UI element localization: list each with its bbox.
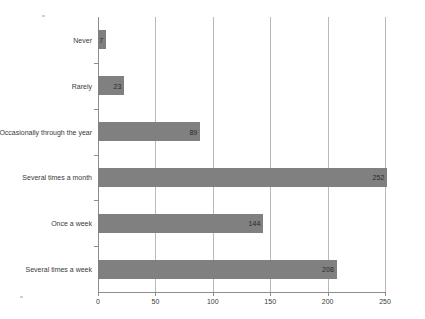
category-label: Several times a month xyxy=(22,174,92,181)
category-label: Once a week xyxy=(51,220,92,227)
bar-chart: 0501001502002507Never23Rarely89Occasiona… xyxy=(0,0,425,319)
gridline xyxy=(213,17,214,292)
x-axis-tick xyxy=(270,292,271,296)
x-axis-tick-label: 200 xyxy=(322,298,334,305)
plot-area xyxy=(98,17,385,292)
bar: 252 xyxy=(98,168,387,187)
x-axis-tick xyxy=(155,292,156,296)
x-axis-tick xyxy=(385,292,386,296)
y-axis-tick xyxy=(94,155,98,156)
x-axis-tick-label: 150 xyxy=(264,298,276,305)
gridline xyxy=(328,17,329,292)
x-axis-tick-label: 250 xyxy=(379,298,391,305)
bar-value-label: 252 xyxy=(373,174,385,181)
y-axis-tick xyxy=(94,200,98,201)
bar-value-label: 7 xyxy=(99,36,103,43)
bar-value-label: 23 xyxy=(114,82,122,89)
y-axis-tick xyxy=(94,246,98,247)
x-axis-line xyxy=(98,292,386,293)
y-axis-tick xyxy=(94,63,98,64)
x-axis-tick xyxy=(328,292,329,296)
bar-value-label: 144 xyxy=(249,220,261,227)
category-label: Occasionally through the year xyxy=(0,128,92,135)
artifact-speck xyxy=(20,296,23,298)
gridline xyxy=(155,17,156,292)
bar: 208 xyxy=(98,260,337,279)
bar-value-label: 89 xyxy=(189,128,197,135)
category-label: Rarely xyxy=(72,82,92,89)
category-label: Never xyxy=(73,36,92,43)
bar: 23 xyxy=(98,76,124,95)
x-axis-tick-label: 0 xyxy=(96,298,100,305)
bar: 144 xyxy=(98,214,263,233)
x-axis-tick-label: 100 xyxy=(207,298,219,305)
bar: 89 xyxy=(98,122,200,141)
artifact-speck xyxy=(42,15,45,17)
gridline xyxy=(270,17,271,292)
x-axis-tick xyxy=(98,292,99,296)
category-label: Several times a week xyxy=(25,266,92,273)
bar: 7 xyxy=(98,30,106,49)
gridline xyxy=(385,17,386,292)
x-axis-tick xyxy=(213,292,214,296)
y-axis-tick xyxy=(94,109,98,110)
bar-value-label: 208 xyxy=(322,266,334,273)
x-axis-tick-label: 50 xyxy=(151,298,159,305)
